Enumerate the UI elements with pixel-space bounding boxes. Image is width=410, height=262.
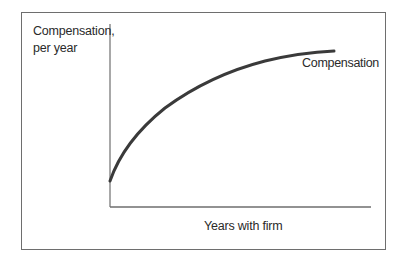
compensation-curve xyxy=(110,51,334,181)
series-label-compensation: Compensation xyxy=(302,56,379,70)
y-axis-label-line-2: per year xyxy=(33,40,114,57)
y-axis-label: Compensation, per year xyxy=(33,23,114,57)
y-axis-label-line-1: Compensation, xyxy=(33,23,114,40)
x-axis-label: Years with firm xyxy=(204,219,283,233)
